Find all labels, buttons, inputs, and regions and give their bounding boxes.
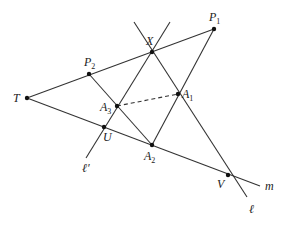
line-label-l-prime: ℓ′ <box>82 161 90 175</box>
label-u: U <box>103 130 113 144</box>
line-label-m: m <box>265 179 274 193</box>
point-v <box>226 173 230 177</box>
point-t <box>25 96 29 100</box>
label-a1: A1 <box>181 87 193 103</box>
geometry-diagram: TP2P1XA3A1A2UV mℓℓ′ <box>0 0 289 227</box>
label-p2: P2 <box>83 55 95 71</box>
point-a1 <box>176 92 180 96</box>
lines-layer <box>27 22 260 197</box>
point-p2 <box>87 72 91 76</box>
line-P2-A2 <box>89 74 152 145</box>
line-l-prime <box>86 22 170 158</box>
label-v: V <box>217 177 226 191</box>
label-a3: A3 <box>99 100 111 116</box>
label-t: T <box>13 91 21 105</box>
label-x: X <box>145 34 154 48</box>
labels-layer: TP2P1XA3A1A2UV <box>13 10 226 191</box>
point-a3 <box>115 104 119 108</box>
line-m <box>27 98 260 186</box>
line-A3-A1 <box>117 94 178 106</box>
point-x <box>150 50 154 54</box>
point-p1 <box>212 27 216 31</box>
label-p1: P1 <box>208 10 220 26</box>
label-a2: A2 <box>143 149 155 165</box>
line-l <box>134 22 247 197</box>
points-layer <box>25 27 230 177</box>
line-label-l: ℓ <box>249 202 254 216</box>
point-a2 <box>150 143 154 147</box>
point-u <box>102 125 106 129</box>
line-labels-layer: mℓℓ′ <box>82 161 274 216</box>
